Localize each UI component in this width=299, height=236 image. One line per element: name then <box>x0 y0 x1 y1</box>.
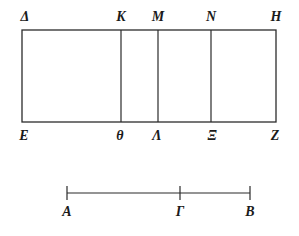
label-lambda: Λ <box>152 129 161 143</box>
label-eta: H <box>271 10 282 24</box>
label-epsilon: E <box>19 129 28 143</box>
geometric-figure: ΔKMNH EθΛΞZ AΓB <box>0 0 299 236</box>
label-mu: M <box>152 10 164 24</box>
label-b: B <box>245 205 254 219</box>
rectangle-divider-group <box>121 30 211 122</box>
rectangle-outline <box>22 30 276 122</box>
label-a: A <box>62 205 71 219</box>
label-theta: θ <box>116 129 123 143</box>
segment-group <box>67 186 250 200</box>
label-zeta: Z <box>271 129 280 143</box>
label-nu: N <box>206 10 216 24</box>
label-xi: Ξ <box>207 129 216 143</box>
label-kappa: K <box>116 10 125 24</box>
label-delta: Δ <box>21 10 30 24</box>
figure-canvas <box>0 0 299 236</box>
label-gamma: Γ <box>176 205 184 219</box>
rectangle-border <box>22 30 276 122</box>
